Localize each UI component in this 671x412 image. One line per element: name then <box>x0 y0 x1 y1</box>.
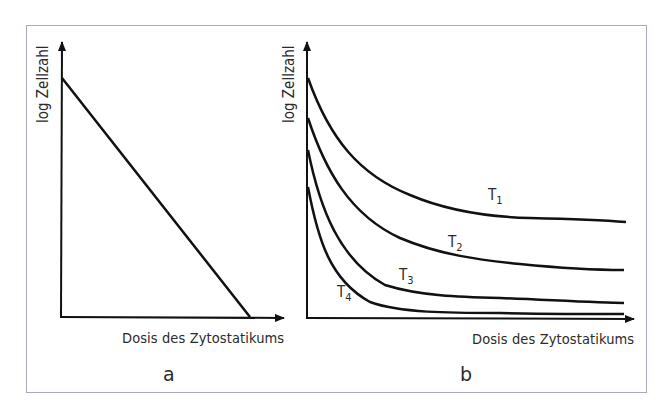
panel-a-y-axis <box>61 42 62 318</box>
panel-b-x-axis <box>306 318 634 319</box>
curve-label-t3: T3 <box>399 266 414 287</box>
panel-a-plot <box>60 42 284 318</box>
panel-a-y-axis-label: log Zellzahl <box>34 45 52 123</box>
curve-label-t4: T4 <box>337 283 352 304</box>
plot-canvas <box>0 0 671 412</box>
panel-b-x-axis-label: Dosis des Zytostatikums <box>472 331 634 347</box>
panel-a-x-axis <box>60 317 284 318</box>
curve-t1 <box>308 78 626 222</box>
panel-a-linear-line <box>62 78 250 317</box>
panel-b-plot <box>306 42 634 319</box>
panel-a-label: a <box>163 363 175 385</box>
figure: log Zellzahl Dosis des Zytostatikums a l… <box>0 0 671 412</box>
curve-label-t2: T2 <box>448 233 463 254</box>
curve-t3 <box>308 150 624 303</box>
curve-t2 <box>308 118 624 270</box>
panel-b-label: b <box>460 363 472 385</box>
panel-b-y-axis-label: log Zellzahl <box>280 45 298 123</box>
curve-label-t1: T1 <box>488 186 503 207</box>
panel-a-x-axis-label: Dosis des Zytostatikums <box>122 330 284 346</box>
